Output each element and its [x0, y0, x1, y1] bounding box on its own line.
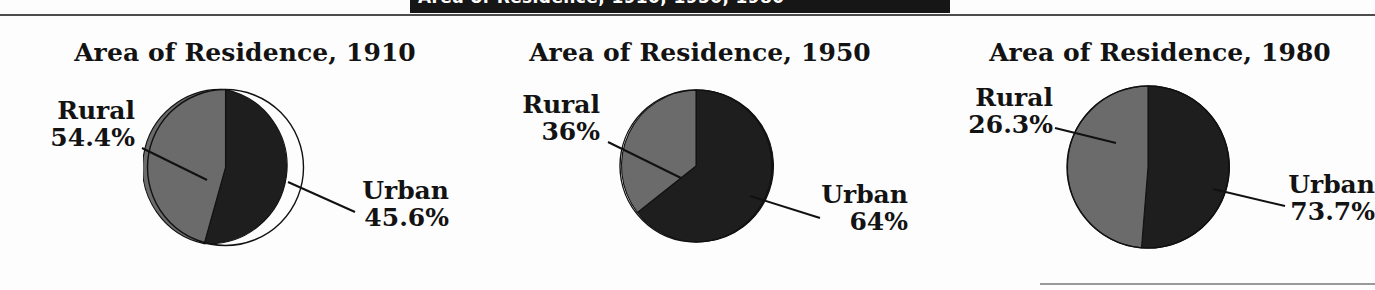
pie-label-rural-1950: Rural 36% — [490, 92, 600, 146]
leader-line-rural-1910 — [142, 148, 207, 180]
pie-label-rural-pct-1980: 26.3% — [945, 112, 1053, 139]
pie-label-urban-pct-1950: 64% — [728, 209, 908, 236]
bottom-horizontal-rule — [1040, 283, 1375, 285]
pie-label-urban-pct-1980: 73.7% — [1189, 199, 1375, 226]
pie-label-urban-1910: Urban 45.6% — [263, 178, 449, 232]
leader-line-rural-1980 — [1055, 128, 1116, 143]
pie-label-rural-name-1950: Rural — [522, 90, 600, 119]
pie-chart-panel-1980: Area of Residence, 1980 Rural 26.3% Urba… — [945, 30, 1375, 280]
leader-lines-1950 — [490, 30, 910, 280]
pie-label-rural-pct-1910: 54.4% — [35, 125, 135, 152]
figure-page: Area of Residence, 1910, 1950, 1980 Area… — [0, 0, 1375, 290]
pie-label-urban-1980: Urban 73.7% — [1189, 172, 1375, 226]
pie-chart-panel-1910: Area of Residence, 1910 Rural 54.4% Urba… — [35, 30, 455, 280]
top-horizontal-rule — [0, 14, 1375, 16]
leader-line-rural-1950 — [608, 142, 681, 178]
pie-label-rural-1980: Rural 26.3% — [945, 85, 1053, 139]
pie-label-urban-pct-1910: 45.6% — [263, 205, 449, 232]
pie-label-urban-name-1980: Urban — [1288, 170, 1375, 199]
pie-label-rural-name-1910: Rural — [57, 96, 135, 125]
leader-lines-1910 — [35, 30, 455, 280]
leader-lines-1980 — [945, 30, 1375, 280]
pie-label-rural-pct-1950: 36% — [490, 119, 600, 146]
page-header-banner-text: Area of Residence, 1910, 1950, 1980 — [418, 0, 785, 7]
pie-label-rural-name-1980: Rural — [975, 83, 1053, 112]
pie-label-urban-1950: Urban 64% — [728, 182, 908, 236]
pie-label-urban-name-1910: Urban — [362, 176, 449, 205]
pie-label-rural-1910: Rural 54.4% — [35, 98, 135, 152]
pie-chart-panel-1950: Area of Residence, 1950 Rural 36% Urban … — [490, 30, 910, 280]
pie-label-urban-name-1950: Urban — [821, 180, 908, 209]
page-header-banner: Area of Residence, 1910, 1950, 1980 — [410, 0, 950, 13]
